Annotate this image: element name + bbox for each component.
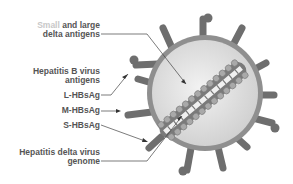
delta-antigens-line2: delta antigens [43,29,100,39]
l-hbsag-label: L-HBsAg [64,91,100,100]
genome-label: Hepatitis delta virus genome [19,148,100,165]
s-hbsag-label: S-HBsAg [63,121,100,130]
leader-s-hbsag [101,125,145,141]
hbv-antigens-label: Hepatitis B virus antigens [33,67,100,84]
hbv-line2: antigens [65,75,100,85]
genome-line2: genome [67,156,100,166]
m-hbsag-label: M-HBsAg [62,106,100,115]
delta-antigens-label: Small and large delta antigens [37,21,100,38]
